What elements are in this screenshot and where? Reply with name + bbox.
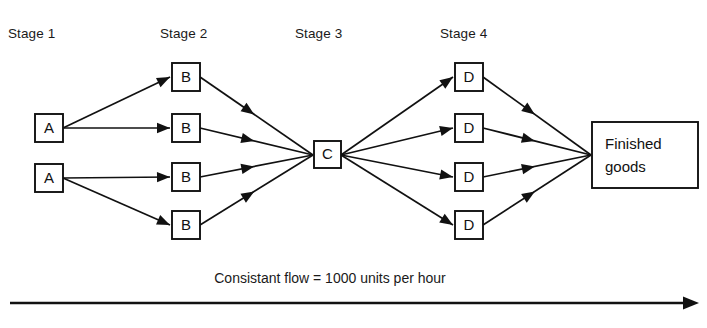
stage-label-group: Stage 1Stage 2Stage 3Stage 4 [8,26,488,41]
flow-caption: Consistant flow = 1000 units per hour [214,270,446,286]
edge-a2-to-b3 [63,172,170,182]
node-a1: A [35,114,63,142]
node-label-d1: D [464,68,475,85]
node-label-c1: C [322,145,333,162]
arrow-head-icon [241,103,255,115]
edge-a1-to-b2 [63,123,170,133]
flow-axis-group [10,297,699,310]
node-b2: B [172,114,200,142]
node-label-b3: B [181,168,191,185]
arrow-head-icon [157,172,170,182]
edge-d1-to-finished-goods [483,77,591,155]
node-b3: B [172,163,200,191]
finished-goods-group: Finishedgoods [592,122,698,188]
arrow-head-icon [240,164,254,174]
arrow-head-icon [240,133,254,143]
arrow-head-icon [156,77,170,87]
node-d2: D [455,114,483,142]
stage-label-1: Stage 1 [8,26,55,41]
edge-c1-to-d3 [341,155,453,180]
caption-group: Consistant flow = 1000 units per hour [214,270,446,286]
arrow-head-icon [439,169,453,179]
flow-axis-arrow-head-icon [683,297,699,310]
node-c1: C [314,141,341,168]
arrow-head-icon [521,133,535,143]
node-d1: D [455,63,483,91]
edge-a2-to-b4 [63,178,170,225]
node-label-b4: B [181,216,191,233]
node-b4: B [172,211,200,239]
edge-b1-to-c1 [200,77,313,155]
node-label-b2: B [181,119,191,136]
node-label-a1: A [44,119,54,136]
finished-goods-label-line2: goods [605,158,646,175]
finished-goods-box [592,122,698,188]
node-label-b1: B [181,68,191,85]
node-a2: A [35,164,63,192]
edge-c1-to-d2 [341,126,453,155]
node-label-d3: D [464,168,475,185]
stage-label-2: Stage 2 [160,26,207,41]
node-label-a2: A [44,169,54,186]
arrow-head-icon [521,191,535,202]
flow-canvas: Stage 1Stage 2Stage 3Stage 4 AABBBBCDDDD… [0,0,707,328]
edge-a1-to-b1 [63,77,170,128]
arrow-head-icon [521,103,535,115]
node-group: AABBBBCDDDD [35,63,483,239]
process-flow-diagram: Stage 1Stage 2Stage 3Stage 4 AABBBBCDDDD… [0,0,707,328]
arrow-head-icon [240,191,254,202]
edge-c1-to-d1 [341,77,453,155]
finished-goods-label-line1: Finished [605,135,662,152]
node-d4: D [455,211,483,239]
node-label-d2: D [464,119,475,136]
edge-d2-to-finished-goods [483,128,591,155]
arrow-head-icon [439,77,453,89]
node-label-d4: D [464,216,475,233]
arrow-head-icon [439,214,453,225]
arrow-head-icon [521,164,535,174]
stage-label-3: Stage 3 [295,26,342,41]
node-b1: B [172,63,200,91]
arrow-head-icon [157,123,170,133]
node-d3: D [455,163,483,191]
arrow-head-icon [439,126,453,136]
edge-b2-to-c1 [200,128,313,155]
arrow-head-icon [156,215,170,225]
stage-label-4: Stage 4 [440,26,488,41]
